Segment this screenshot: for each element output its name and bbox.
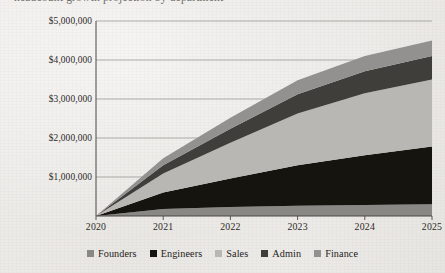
legend-swatch-engineers [150, 250, 157, 257]
legend-label: Founders [98, 248, 137, 259]
x-axis-tick-label-2020: 2020 [86, 221, 106, 232]
legend-swatch-sales [215, 250, 222, 257]
y-axis: $1,000,000$2,000,000$3,000,000$4,000,000… [0, 0, 92, 273]
legend-swatch-admin [261, 250, 268, 257]
legend-item-finance[interactable]: Finance [314, 248, 358, 259]
legend-swatch-founders [87, 250, 94, 257]
legend-label: Finance [325, 248, 358, 259]
legend-item-engineers[interactable]: Engineers [150, 248, 203, 259]
y-axis-tick-label: $5,000,000 [49, 16, 92, 26]
legend-item-founders[interactable]: Founders [87, 248, 137, 259]
x-axis-tick-label-2021: 2021 [153, 221, 173, 232]
chart-legend: FoundersEngineersSalesAdminFinance [0, 248, 445, 259]
x-axis-tick-label-2022: 2022 [220, 221, 240, 232]
area-series-group [96, 41, 432, 217]
y-axis-tick-label: $2,000,000 [49, 133, 92, 143]
legend-item-sales[interactable]: Sales [215, 248, 248, 259]
legend-label: Engineers [161, 248, 203, 259]
y-axis-tick-label: $3,000,000 [49, 94, 92, 104]
legend-swatch-finance [314, 250, 321, 257]
x-axis-tick-label-2025: 2025 [422, 221, 442, 232]
legend-label: Admin [272, 248, 301, 259]
x-axis-tick-label-2024: 2024 [355, 221, 375, 232]
x-axis-tick-label-2023: 2023 [287, 221, 307, 232]
y-axis-tick-label: $4,000,000 [49, 55, 92, 65]
legend-label: Sales [226, 248, 248, 259]
legend-item-admin[interactable]: Admin [261, 248, 301, 259]
y-axis-tick-label: $1,000,000 [49, 172, 92, 182]
